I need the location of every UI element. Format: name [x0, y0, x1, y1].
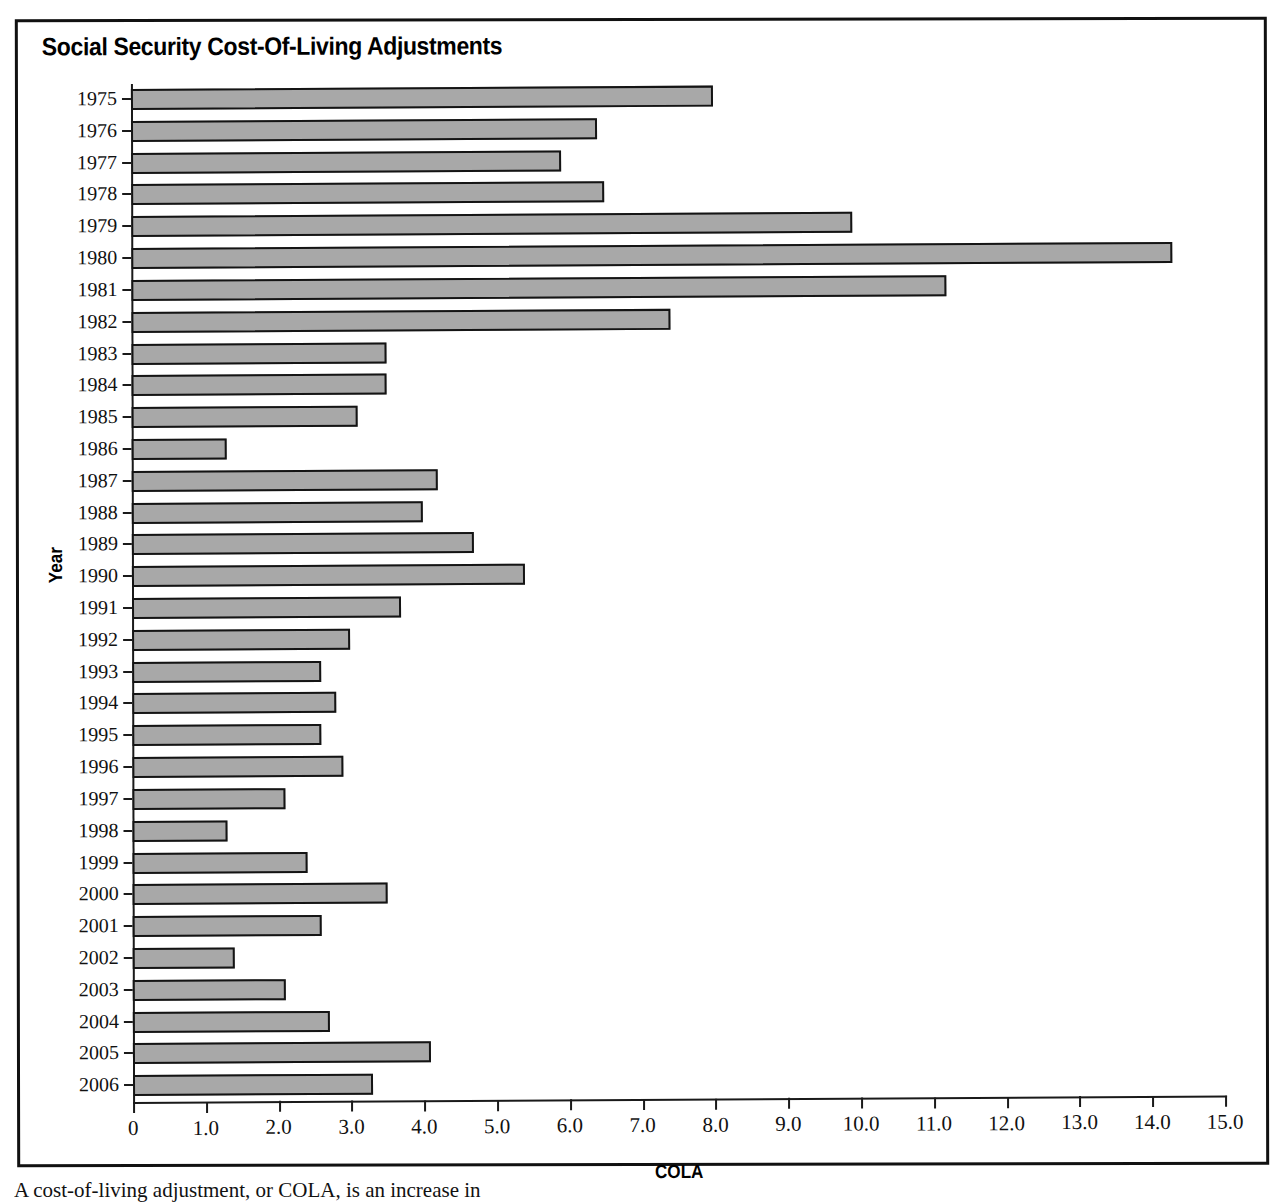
y-axis-tick-label: 1998 — [78, 819, 118, 842]
y-axis-tick — [124, 989, 133, 991]
x-axis-tick — [643, 1099, 645, 1110]
bar — [132, 661, 321, 683]
y-axis-tick — [122, 162, 131, 164]
bar — [131, 86, 714, 110]
bar — [132, 564, 525, 587]
x-axis-tick-label: 8.0 — [702, 1113, 728, 1138]
y-axis-tick-label: 2003 — [79, 978, 119, 1001]
bar-row: 1985 — [132, 400, 1224, 434]
y-axis-tick — [123, 480, 132, 482]
y-axis-tick-label: 1985 — [78, 405, 118, 428]
y-axis-tick — [123, 448, 132, 450]
bar-row: 2004 — [133, 1004, 1225, 1038]
y-axis-tick-label: 2002 — [79, 946, 119, 969]
y-axis-tick — [124, 1052, 133, 1054]
bar — [132, 532, 474, 555]
x-axis-tick-label: 10.0 — [843, 1112, 880, 1137]
y-axis-tick-label: 1989 — [78, 532, 118, 555]
x-axis-tick-label: 0 — [128, 1116, 139, 1141]
y-axis-tick-label: 1984 — [78, 373, 118, 396]
bar-row: 1982 — [131, 304, 1223, 338]
bar — [131, 342, 386, 365]
bar-row: 2003 — [133, 973, 1225, 1007]
y-axis-tick-label: 1979 — [77, 214, 117, 237]
bar — [131, 118, 597, 142]
bar — [133, 883, 388, 906]
bar-row: 1977 — [131, 145, 1223, 179]
bar-row: 1976 — [131, 114, 1223, 148]
y-axis-title: Year — [45, 547, 67, 583]
y-axis-tick-label: 1977 — [77, 151, 117, 174]
y-axis-tick-label: 1976 — [77, 119, 117, 142]
x-axis-tick-label: 5.0 — [484, 1114, 510, 1139]
y-axis-tick — [122, 194, 131, 196]
bar — [132, 724, 321, 746]
bar — [132, 596, 401, 619]
bar — [133, 852, 308, 874]
y-axis-tick — [122, 257, 131, 259]
y-axis-tick-label: 1986 — [78, 437, 118, 460]
y-axis-tick-label: 1983 — [77, 342, 117, 365]
y-axis-tick-label: 1975 — [77, 87, 117, 110]
bar-row: 1995 — [132, 718, 1224, 752]
bar — [133, 979, 286, 1001]
x-axis-tick-label: 15.0 — [1207, 1110, 1244, 1135]
y-axis-tick-label: 2001 — [79, 914, 119, 937]
y-axis-tick — [123, 639, 132, 641]
bar — [132, 692, 336, 714]
x-axis-tick — [424, 1100, 426, 1111]
y-axis-tick — [124, 957, 133, 959]
bar-row: 1998 — [132, 813, 1224, 847]
x-axis-tick — [861, 1098, 863, 1109]
x-axis-tick-label: 4.0 — [411, 1114, 437, 1139]
bar — [132, 820, 227, 842]
bar — [132, 406, 358, 428]
y-axis-tick — [123, 830, 132, 832]
bar-row: 1999 — [133, 845, 1225, 879]
bar — [131, 150, 561, 174]
y-axis-tick — [123, 575, 132, 577]
x-axis-tick-label: 1.0 — [193, 1116, 219, 1141]
x-axis-tick-label: 9.0 — [775, 1112, 801, 1137]
y-axis-tick-label: 1981 — [77, 278, 117, 301]
y-axis-tick — [124, 1021, 133, 1023]
bar-row: 2000 — [133, 877, 1225, 911]
y-axis-tick-label: 1990 — [78, 564, 118, 587]
bar-row: 1987 — [132, 464, 1224, 498]
bar-row: 1996 — [132, 750, 1224, 784]
y-axis-tick — [123, 607, 132, 609]
x-axis-tick-label: 13.0 — [1061, 1110, 1098, 1135]
x-axis-tick — [788, 1098, 790, 1109]
bar — [133, 915, 322, 937]
bar-row: 2001 — [133, 909, 1225, 943]
y-axis-tick — [122, 289, 131, 291]
bar — [132, 756, 343, 778]
x-axis-tick — [351, 1101, 353, 1112]
x-axis-tick — [497, 1100, 499, 1111]
y-axis-tick — [124, 1084, 133, 1086]
y-axis-tick-label: 1991 — [78, 596, 118, 619]
y-axis-tick-label: 1994 — [78, 692, 118, 715]
bar — [131, 309, 670, 333]
figure-frame: Social Security Cost-Of-Living Adjustmen… — [15, 17, 1269, 1168]
y-axis-tick-label: 2004 — [79, 1010, 119, 1033]
figure-caption: A cost-of-living adjustment, or COLA, is… — [14, 1178, 1274, 1203]
bar — [132, 629, 351, 651]
bar-row: 1978 — [131, 177, 1223, 211]
bar — [133, 947, 235, 969]
bar-row: 1986 — [132, 432, 1224, 466]
x-axis-tick-label: 12.0 — [988, 1111, 1025, 1136]
bar-row: 1980 — [131, 241, 1223, 275]
y-axis-tick-label: 1992 — [78, 628, 118, 651]
y-axis-tick-label: 1999 — [79, 851, 119, 874]
bar-row: 1997 — [132, 782, 1224, 816]
y-axis-tick-label: 1987 — [78, 469, 118, 492]
bar-row: 1990 — [132, 559, 1224, 593]
x-axis-tick-label: 2.0 — [266, 1115, 292, 1140]
bar-row: 1979 — [131, 209, 1223, 243]
y-axis-tick — [122, 98, 131, 100]
bar — [132, 374, 387, 397]
y-axis-tick — [123, 766, 132, 768]
bar — [133, 1042, 432, 1065]
